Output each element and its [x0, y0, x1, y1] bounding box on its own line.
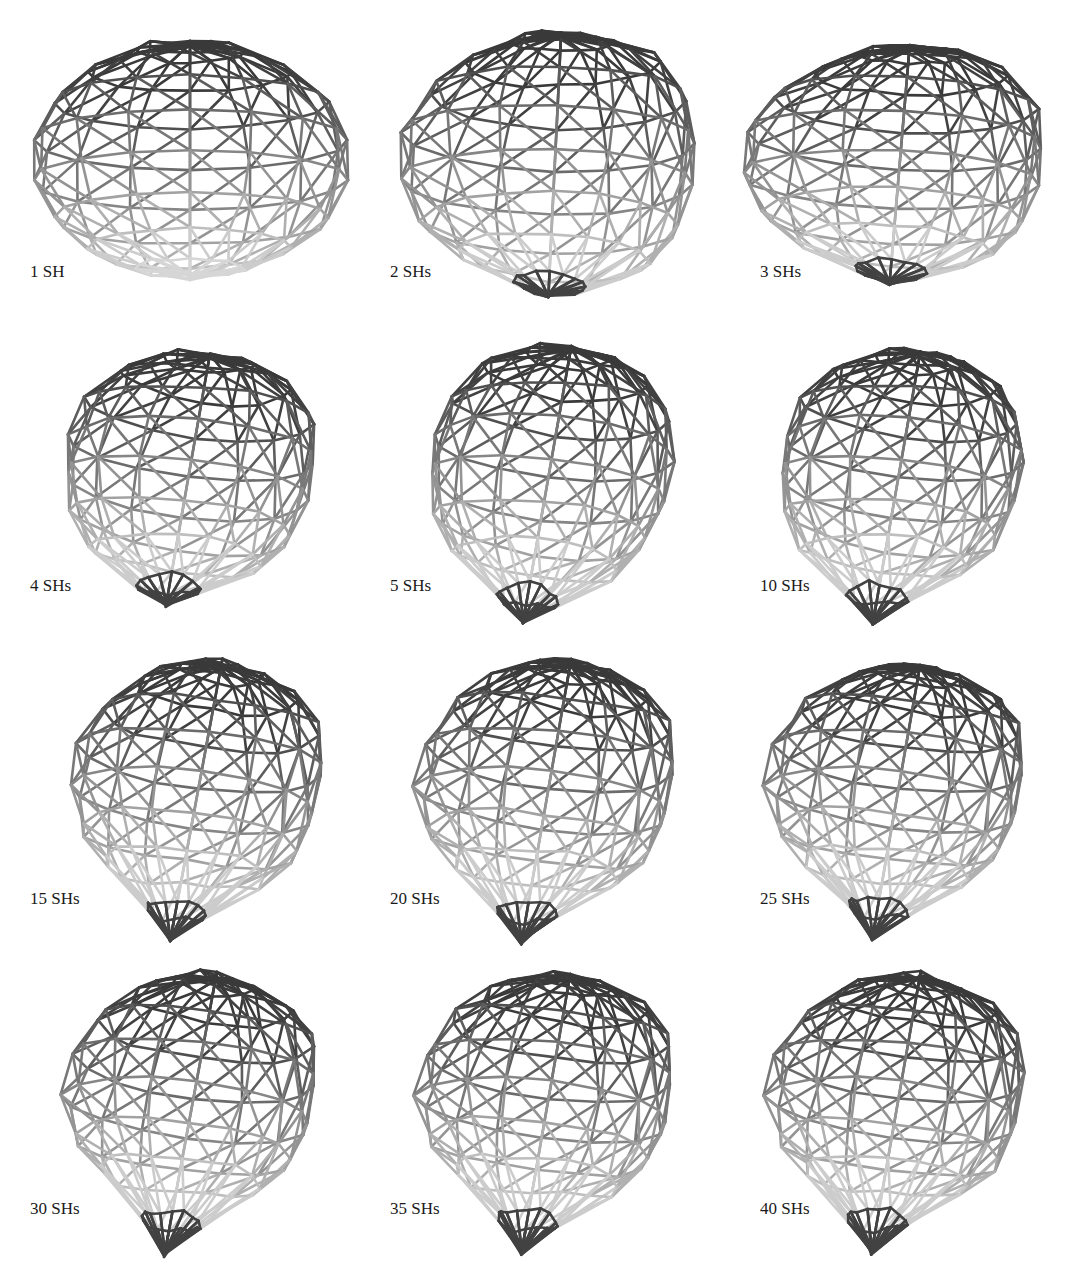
panel-label-4: 4 SHs — [30, 576, 71, 596]
mesh-panel-11 — [413, 971, 670, 1255]
mesh-layer — [0, 0, 1069, 1261]
mesh-panel-3 — [744, 45, 1041, 285]
panel-label-15: 15 SHs — [30, 889, 80, 909]
panel-label-3: 3 SHs — [760, 262, 801, 282]
panel-label-1: 1 SH — [30, 262, 64, 282]
panel-label-25: 25 SHs — [760, 889, 810, 909]
panel-label-40: 40 SHs — [760, 1199, 810, 1219]
mesh-panel-6 — [783, 348, 1024, 625]
mesh-panel-8 — [412, 658, 672, 944]
mesh-panel-1 — [34, 41, 348, 280]
sh-reconstruction-figure: 1 SH 2 SHs 3 SHs 4 SHs 5 SHs 10 SHs 15 S… — [0, 0, 1069, 1261]
panel-label-2: 2 SHs — [390, 262, 431, 282]
panel-label-20: 20 SHs — [390, 889, 440, 909]
panel-label-10: 10 SHs — [760, 576, 810, 596]
mesh-panel-4 — [68, 349, 314, 606]
panel-label-5: 5 SHs — [390, 576, 431, 596]
mesh-panel-7 — [71, 659, 321, 941]
panel-label-30: 30 SHs — [30, 1199, 80, 1219]
mesh-panel-5 — [432, 343, 674, 623]
panel-label-35: 35 SHs — [390, 1199, 440, 1219]
mesh-panel-10 — [61, 970, 314, 1257]
mesh-panel-2 — [401, 31, 695, 298]
